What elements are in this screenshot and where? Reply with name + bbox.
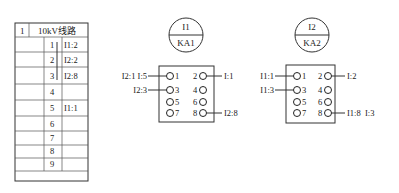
pin-7-icon bbox=[167, 110, 174, 117]
wire-label: I:2 bbox=[347, 71, 356, 81]
pin-3-icon bbox=[167, 87, 174, 94]
row-num: 9 bbox=[50, 159, 54, 169]
pin-2-icon bbox=[200, 73, 207, 80]
pin-label: 7 bbox=[175, 108, 179, 118]
pin-1-icon bbox=[294, 73, 301, 80]
pin-7-icon bbox=[294, 110, 301, 117]
relay-circle-bottom: KA2 bbox=[303, 38, 321, 48]
wire-label: I1:8 I:3 bbox=[347, 108, 374, 118]
table-header-title: 10kV线路 bbox=[38, 25, 76, 36]
pin-label: 1 bbox=[302, 71, 306, 81]
pin-label: 2 bbox=[318, 71, 322, 81]
pin-2-icon bbox=[325, 73, 332, 80]
pin-4-icon bbox=[200, 87, 207, 94]
pin-5-icon bbox=[294, 99, 301, 106]
table-header-id: 1 bbox=[20, 26, 25, 36]
wiring-diagram: 1 10kV线路 1 2 3 4 5 6 7 8 9 I1:2 I2:2 I2:… bbox=[0, 0, 399, 193]
pin-label: 4 bbox=[318, 85, 323, 95]
terminal-table: 1 10kV线路 1 2 3 4 5 6 7 8 9 I1:2 I2:2 I2:… bbox=[15, 23, 88, 181]
relay-ka1: I1 KA1 1 3 5 7 2 4 6 8 I2:1 I:5 I2:3 I:1… bbox=[122, 18, 238, 122]
pin-3-icon bbox=[294, 87, 301, 94]
wire-label: I2:3 bbox=[133, 85, 147, 95]
row-label: I1:1 bbox=[64, 103, 78, 113]
pin-8-icon bbox=[200, 110, 207, 117]
pin-4-icon bbox=[325, 87, 332, 94]
pin-label: 3 bbox=[302, 85, 306, 95]
row-num: 8 bbox=[50, 146, 54, 156]
pin-label: 3 bbox=[175, 85, 179, 95]
row-num: 3 bbox=[50, 71, 54, 81]
row-label: I2:2 bbox=[64, 55, 78, 65]
pin-6-icon bbox=[325, 99, 332, 106]
pin-label: 8 bbox=[193, 108, 197, 118]
row-label: I1:2 bbox=[64, 40, 78, 50]
wire-label: I1:1 bbox=[260, 71, 274, 81]
relay-circle-top: I1 bbox=[182, 22, 190, 32]
wire-label: I2:1 I:5 bbox=[122, 71, 147, 81]
wire-label: I1:3 bbox=[260, 85, 274, 95]
pin-label: 4 bbox=[193, 85, 198, 95]
pin-8-icon bbox=[325, 110, 332, 117]
row-label: I2:8 bbox=[64, 71, 78, 81]
pin-label: 2 bbox=[193, 71, 197, 81]
row-num: 7 bbox=[50, 133, 54, 143]
relay-circle-bottom: KA1 bbox=[177, 38, 195, 48]
pin-label: 6 bbox=[318, 97, 322, 107]
pin-label: 6 bbox=[193, 97, 197, 107]
row-num: 6 bbox=[50, 119, 54, 129]
pin-1-icon bbox=[167, 73, 174, 80]
pin-label: 5 bbox=[302, 97, 306, 107]
relay-ka2: I2 KA2 1 3 5 7 2 4 6 8 I1:1 I1:3 I:2 I1:… bbox=[260, 18, 374, 123]
wire-label: I2:8 bbox=[224, 108, 238, 118]
row-num: 1 bbox=[50, 40, 54, 50]
row-num: 2 bbox=[50, 55, 54, 65]
pin-5-icon bbox=[167, 99, 174, 106]
pin-6-icon bbox=[200, 99, 207, 106]
row-num: 4 bbox=[50, 87, 55, 97]
pin-label: 1 bbox=[175, 71, 179, 81]
relay-circle-top: I2 bbox=[308, 22, 316, 32]
row-num: 5 bbox=[50, 103, 54, 113]
pin-label: 7 bbox=[302, 108, 306, 118]
wire-label: I:1 bbox=[224, 71, 233, 81]
pin-label: 5 bbox=[175, 97, 179, 107]
pin-label: 8 bbox=[318, 108, 322, 118]
